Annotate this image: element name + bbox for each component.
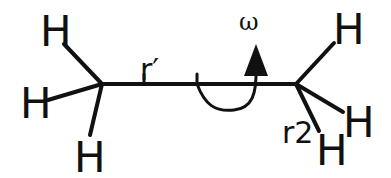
atom-h-left: H	[20, 79, 52, 128]
bond-c2-h-top	[296, 43, 334, 84]
atom-h-top-right: H	[333, 5, 365, 54]
left-methyl-bonds	[48, 44, 102, 135]
label-r-prime: r′	[140, 52, 159, 87]
atom-h-bottom-left: H	[74, 133, 106, 178]
atom-h-bottom-right: H	[316, 126, 348, 175]
bond-c1-h-left	[48, 84, 102, 100]
label-omega: ω	[239, 8, 259, 36]
ethane-torsion-diagram: H H H H H H r′ r2 ω	[0, 0, 391, 178]
atom-h-right: H	[343, 98, 375, 147]
torsion-arrowhead-icon	[244, 44, 268, 76]
atom-h-top-left: H	[40, 7, 72, 56]
bond-c1-h-bottom	[90, 84, 102, 135]
label-r2: r2	[282, 115, 313, 150]
